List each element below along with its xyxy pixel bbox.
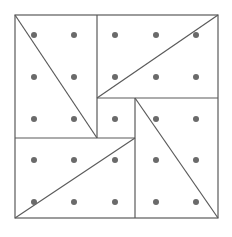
dot-grid — [31, 32, 199, 205]
grid-dot — [31, 74, 37, 80]
diagonal-bottom-left-rectangle — [15, 138, 135, 218]
diagonal-top-right-rectangle — [97, 15, 218, 98]
grid-dot — [112, 157, 118, 163]
grid-dot — [71, 74, 77, 80]
grid-dot — [153, 32, 159, 38]
grid-dot — [112, 116, 118, 122]
grid-dot — [193, 157, 199, 163]
grid-dot — [153, 74, 159, 80]
diagonal-top-left-rectangle — [15, 15, 97, 138]
grid-dot — [31, 199, 37, 205]
grid-dot — [193, 199, 199, 205]
grid-dot — [31, 116, 37, 122]
grid-dot — [153, 157, 159, 163]
grid-dot — [193, 74, 199, 80]
grid-dot — [71, 157, 77, 163]
grid-dot — [193, 116, 199, 122]
grid-dot — [153, 116, 159, 122]
grid-dot — [193, 32, 199, 38]
diagonal-bottom-right-rectangle — [135, 98, 218, 218]
grid-dot — [112, 32, 118, 38]
grid-dot — [31, 157, 37, 163]
grid-dot — [71, 199, 77, 205]
grid-dot — [71, 116, 77, 122]
pinwheel-dot-grid-diagram — [0, 0, 232, 237]
grid-dot — [112, 74, 118, 80]
grid-dot — [71, 32, 77, 38]
grid-dot — [112, 199, 118, 205]
grid-dot — [153, 199, 159, 205]
grid-dot — [31, 32, 37, 38]
